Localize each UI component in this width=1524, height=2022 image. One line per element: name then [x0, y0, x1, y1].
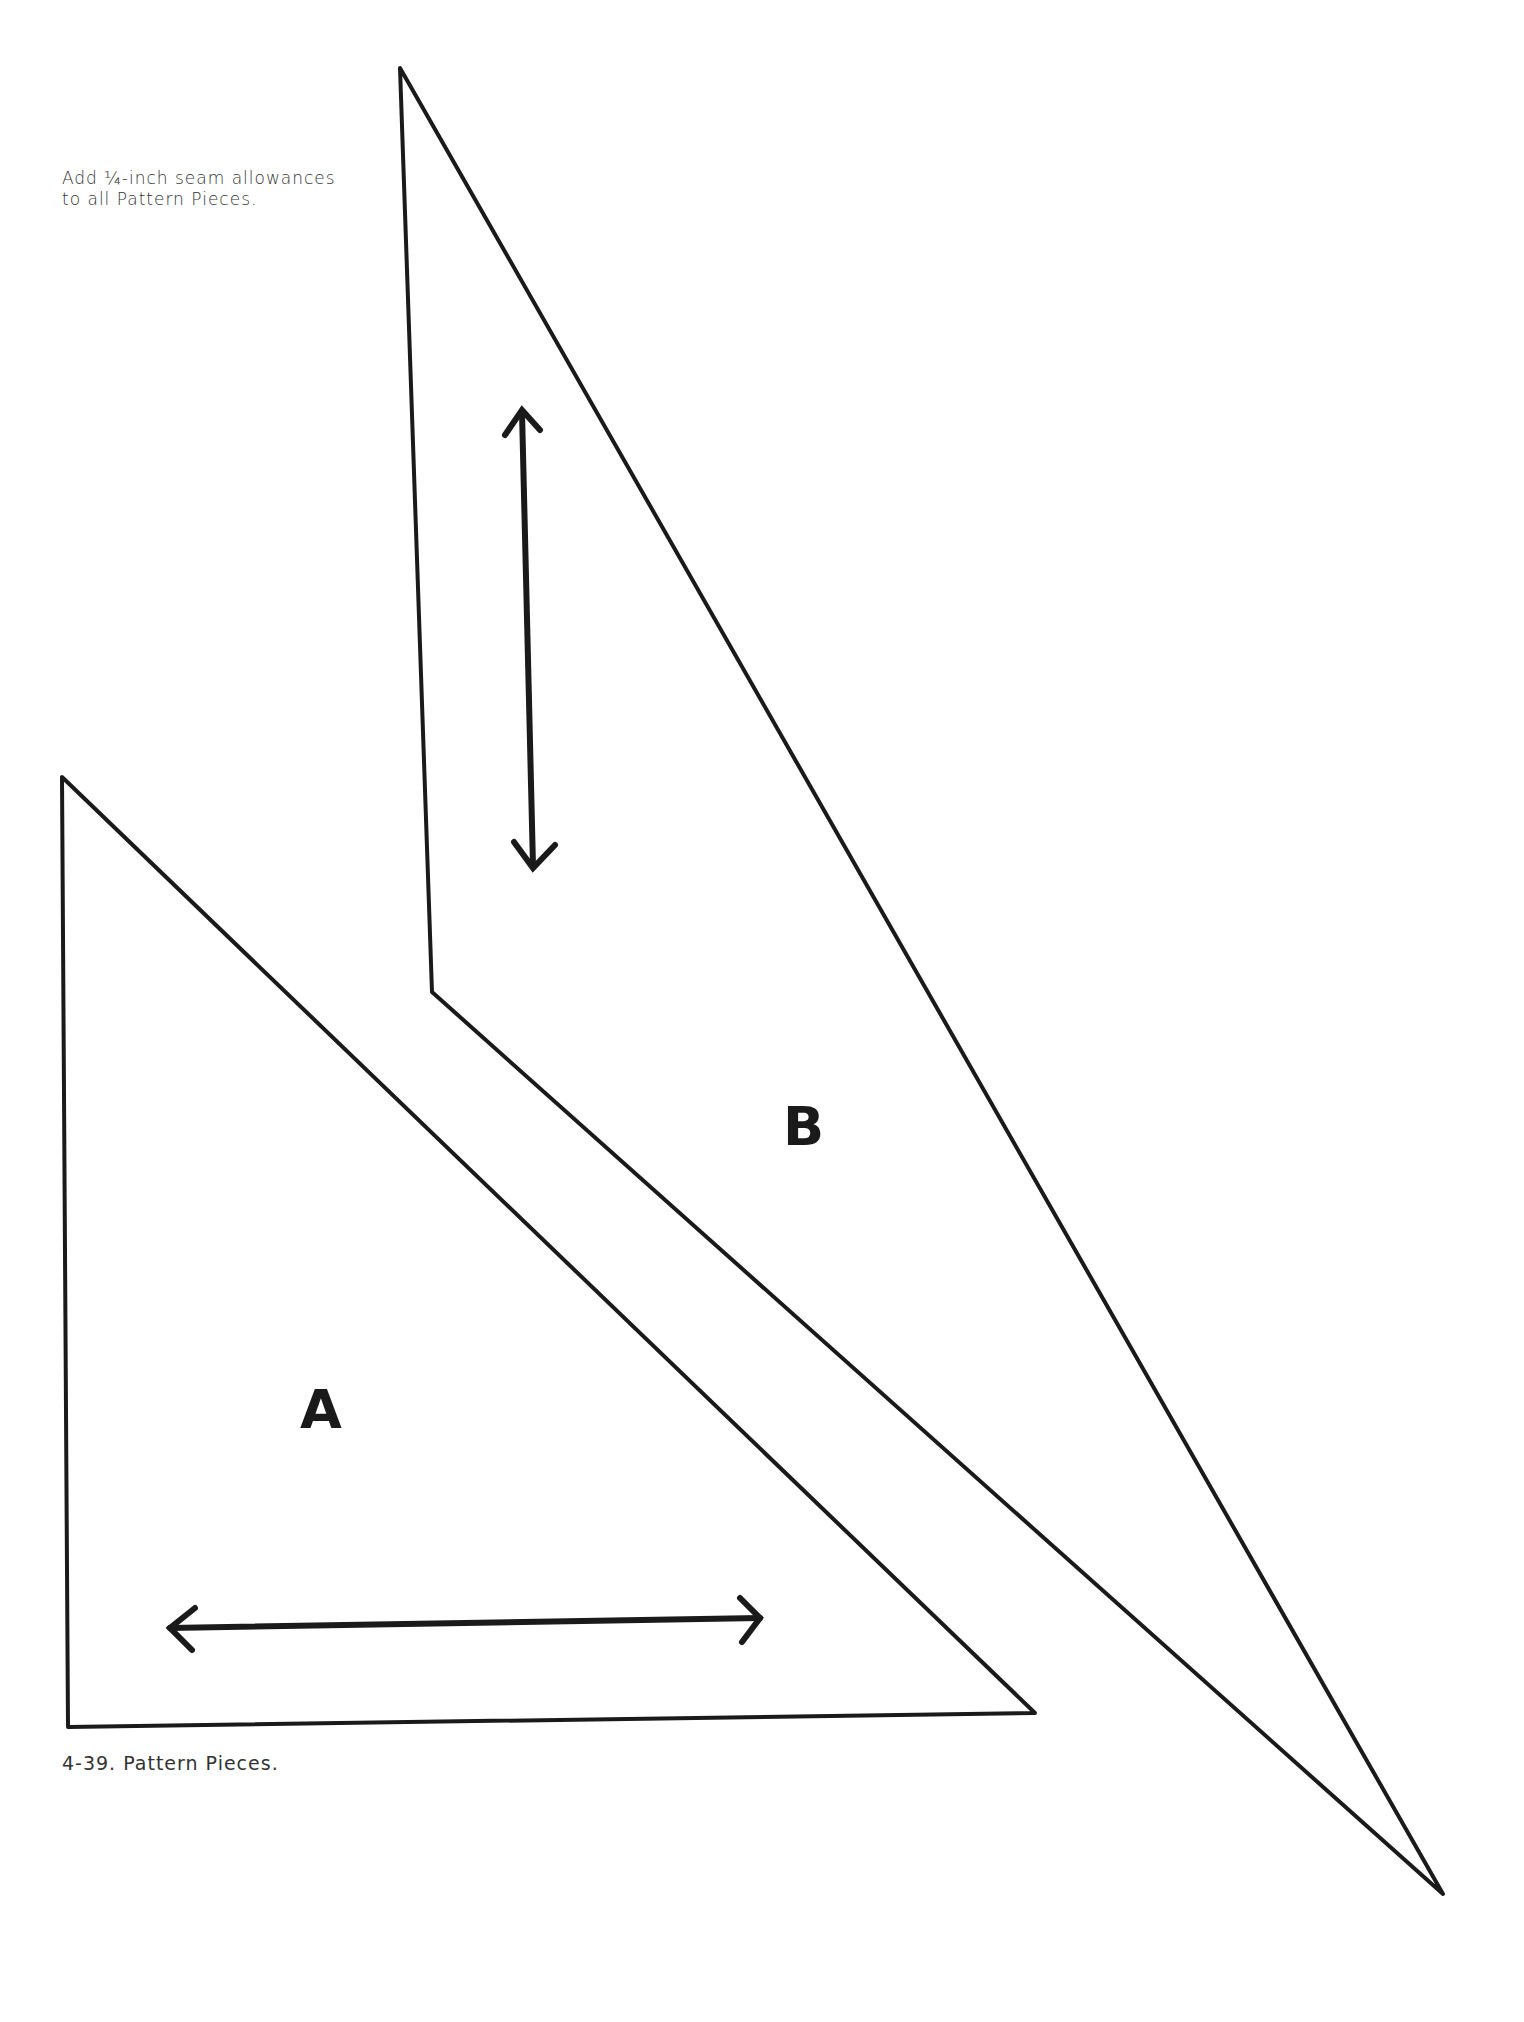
figure-caption: 4-39. Pattern Pieces. [62, 1752, 279, 1774]
piece-label-a: A [300, 1378, 342, 1441]
piece-label-b: B [783, 1095, 824, 1158]
pattern-pieces-drawing [0, 0, 1524, 2022]
grainline-arrow-a [170, 1598, 760, 1650]
pattern-piece-a-outline [62, 777, 1035, 1727]
grainline-arrow-b [505, 410, 555, 868]
